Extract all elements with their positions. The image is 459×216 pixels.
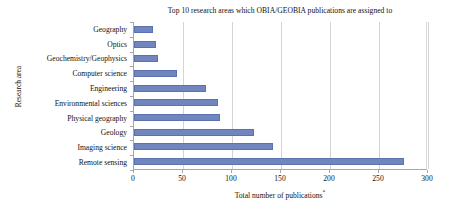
- bar[interactable]: [134, 70, 177, 77]
- y-axis-tick-mark: [130, 81, 133, 82]
- y-axis-tick-mark: [130, 37, 133, 38]
- y-axis-tick-label: Geology: [18, 126, 130, 141]
- y-axis-tick-label: Remote sensing: [18, 155, 130, 170]
- x-axis-tick-label: 100: [216, 174, 246, 183]
- y-axis-tick-mark: [130, 155, 133, 156]
- bar-row: [134, 81, 426, 96]
- x-axis-tick-label: 150: [265, 174, 295, 183]
- y-axis-tick-mark: [130, 126, 133, 127]
- y-axis-tick-label: Physical geography: [18, 111, 130, 126]
- x-axis-tick-label: 300: [412, 174, 442, 183]
- bar-row: [134, 51, 426, 66]
- y-axis-tick-label: Environmental sciences: [18, 96, 130, 111]
- y-axis-tick-mark: [130, 170, 133, 171]
- x-axis-tick-label: 50: [167, 174, 197, 183]
- bar[interactable]: [134, 26, 153, 33]
- bar[interactable]: [134, 55, 158, 62]
- x-axis-title-text: Total number of publications: [235, 191, 323, 200]
- bar-row: [134, 154, 426, 169]
- chart-figure: Top 10 research areas which OBIA/GEOBIA …: [0, 0, 459, 216]
- x-axis-tick-mark: [427, 170, 428, 173]
- y-axis-tick-mark: [130, 111, 133, 112]
- y-axis-tick-labels: Geography Optics Geochemistry/Geophysics…: [18, 22, 130, 170]
- bar[interactable]: [134, 41, 156, 48]
- y-axis-tick-label: Optics: [18, 37, 130, 52]
- bar[interactable]: [134, 85, 206, 92]
- bar-row: [134, 110, 426, 125]
- x-axis-title: Total number of publications*: [133, 189, 427, 200]
- y-axis-tick-mark: [130, 66, 133, 67]
- bar[interactable]: [134, 114, 220, 121]
- gridline: [428, 22, 429, 169]
- y-axis-tick-label: Geography: [18, 22, 130, 37]
- chart-title: Top 10 research areas which OBIA/GEOBIA …: [133, 6, 427, 16]
- bar-series: [134, 22, 426, 169]
- bar[interactable]: [134, 158, 404, 165]
- x-axis-tick-label: 250: [363, 174, 393, 183]
- x-axis-title-footnote-marker: *: [323, 189, 326, 195]
- bar[interactable]: [134, 143, 273, 150]
- x-axis-tick-mark: [182, 170, 183, 173]
- x-axis-tick-mark: [133, 170, 134, 173]
- bar[interactable]: [134, 99, 218, 106]
- bar[interactable]: [134, 129, 254, 136]
- y-axis-tick-label: Geochemistry/Geophysics: [18, 52, 130, 67]
- y-axis-tick-label: Computer science: [18, 66, 130, 81]
- x-axis-tick-mark: [231, 170, 232, 173]
- bar-row: [134, 125, 426, 140]
- x-axis-tick-mark: [378, 170, 379, 173]
- y-axis-tick-mark: [130, 140, 133, 141]
- x-axis-tick-label: 200: [314, 174, 344, 183]
- y-axis-tick-mark: [130, 52, 133, 53]
- y-axis-tick-mark: [130, 96, 133, 97]
- y-axis-tick-mark: [130, 22, 133, 23]
- y-axis-tick-label: Imaging science: [18, 140, 130, 155]
- bar-row: [134, 66, 426, 81]
- x-axis-tick-mark: [329, 170, 330, 173]
- plot-area: [133, 22, 427, 170]
- bar-row: [134, 96, 426, 111]
- bar-row: [134, 37, 426, 52]
- y-axis-tick-label: Engineering: [18, 81, 130, 96]
- bar-row: [134, 22, 426, 37]
- x-axis-tick-label: 0: [118, 174, 148, 183]
- bar-row: [134, 140, 426, 155]
- x-axis-tick-mark: [280, 170, 281, 173]
